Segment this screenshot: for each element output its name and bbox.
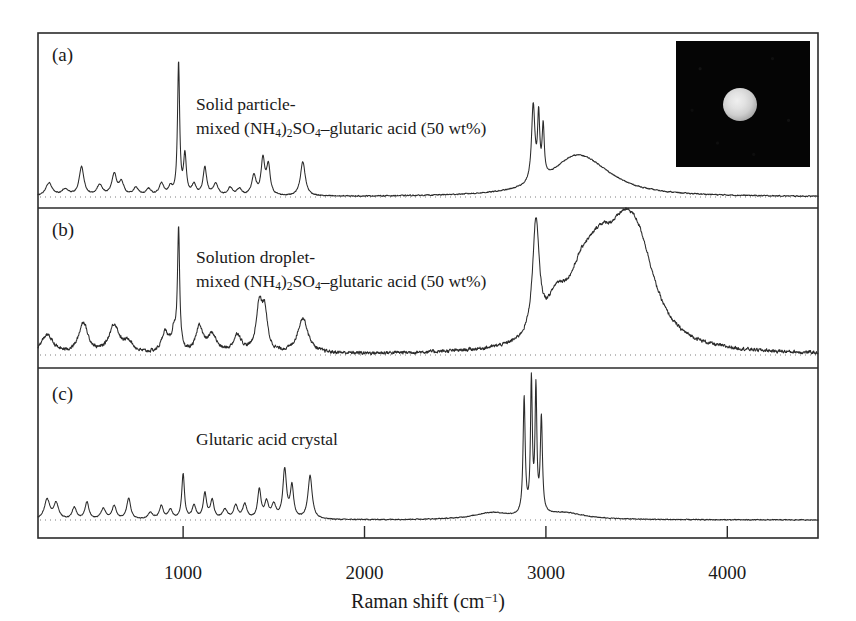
x-axis-title: Raman shift (cm−1) (351, 590, 505, 613)
series-label-c-line1: Glutaric acid crystal (196, 428, 338, 452)
inset-micrograph (676, 41, 810, 167)
series-label-a: Solid particle- mixed (NH4)2SO4–glutaric… (196, 93, 486, 141)
series-label-b-tail: –glutaric acid (50 wt%) (321, 271, 487, 291)
panel-label-b: (b) (52, 219, 74, 241)
particle-image (723, 88, 757, 121)
x-axis-title-exponent: −1 (484, 590, 498, 605)
panel-label-c: (c) (52, 383, 73, 405)
series-label-a-tail: –glutaric acid (50 wt%) (321, 118, 487, 138)
x-tick-label-1000: 1000 (164, 562, 202, 584)
x-axis-title-tail: ) (498, 590, 505, 612)
x-tick-label-3000: 3000 (527, 562, 565, 584)
series-label-c: Glutaric acid crystal (196, 428, 338, 452)
raman-spectra-figure: (a) Solid particle- mixed (NH4)2SO4–glut… (0, 0, 856, 621)
spectrum-trace-c (38, 373, 818, 521)
series-label-a-line2: mixed (NH4)2SO4–glutaric acid (50 wt%) (196, 117, 486, 142)
panel-label-a: (a) (52, 44, 73, 66)
series-label-a-line1: Solid particle- (196, 93, 486, 117)
series-label-b: Solution droplet- mixed (NH4)2SO4–glutar… (196, 246, 486, 294)
series-label-b-mid2: SO (293, 271, 315, 291)
series-label-a-mid2: SO (293, 118, 315, 138)
x-tick-label-2000: 2000 (346, 562, 384, 584)
series-label-b-line2: mixed (NH4)2SO4–glutaric acid (50 wt%) (196, 270, 486, 295)
series-label-b-line1: Solution droplet- (196, 246, 486, 270)
series-label-a-formula-pre: mixed (NH (196, 118, 275, 138)
series-label-b-formula-pre: mixed (NH (196, 271, 275, 291)
x-axis-title-main: Raman shift (cm (351, 590, 484, 612)
x-tick-label-4000: 4000 (708, 562, 746, 584)
